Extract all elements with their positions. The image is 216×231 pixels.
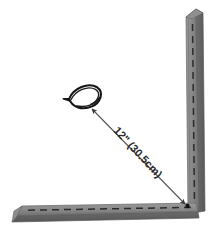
diagram-canvas: 12" (30.5cm): [0, 0, 216, 231]
inside-corner-point: [185, 204, 189, 208]
dimension-label: 12" (30.5cm): [112, 124, 165, 180]
wall-horizontal: [12, 203, 199, 222]
corner-clearance-diagram: 12" (30.5cm): [0, 0, 216, 231]
wall-vertical: [186, 9, 205, 213]
sprinkler-head: [63, 80, 105, 117]
dimension-label-group: 12" (30.5cm): [112, 124, 165, 180]
